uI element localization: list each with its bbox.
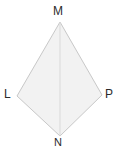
kite-diagram-svg bbox=[0, 0, 117, 149]
vertex-label-L: L bbox=[4, 88, 11, 100]
vertex-label-N: N bbox=[54, 137, 62, 148]
geometry-figure-canvas: M L P N bbox=[0, 0, 117, 149]
vertex-label-M: M bbox=[53, 5, 63, 17]
vertex-label-P: P bbox=[105, 88, 113, 100]
